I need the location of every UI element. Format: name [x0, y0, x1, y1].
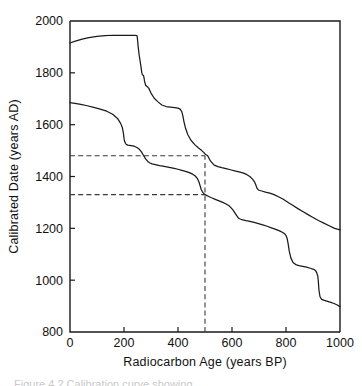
y-tick-label: 1600: [35, 118, 63, 132]
y-tick-label: 1200: [35, 222, 63, 236]
x-axis-title: Radiocarbon Age (years BP): [123, 355, 287, 369]
y-axis-title: Calibrated Date (years AD): [7, 99, 21, 254]
x-tick-label: 0: [67, 336, 74, 350]
axis-spine-left-bottom: [70, 21, 340, 332]
x-tick-label: 600: [222, 336, 243, 350]
y-tick-label: 1400: [35, 170, 63, 184]
radiocarbon-calibration-figure: 8001000120014001600180020000200400600800…: [0, 0, 362, 386]
y-tick-label: 1800: [35, 66, 63, 80]
calibration-chart: 8001000120014001600180020000200400600800…: [0, 0, 362, 386]
x-tick-label: 800: [276, 336, 297, 350]
y-tick-label: 800: [42, 325, 63, 339]
x-tick-label: 1000: [326, 336, 354, 350]
x-tick-label: 400: [168, 336, 189, 350]
y-tick-label: 1000: [35, 274, 63, 288]
y-tick-label: 2000: [35, 14, 63, 28]
x-tick-label: 200: [114, 336, 135, 350]
axis-spine-top-right: [70, 21, 340, 332]
figure-caption-partial: Figure 4.2 Calibration curve showing...: [0, 378, 362, 386]
